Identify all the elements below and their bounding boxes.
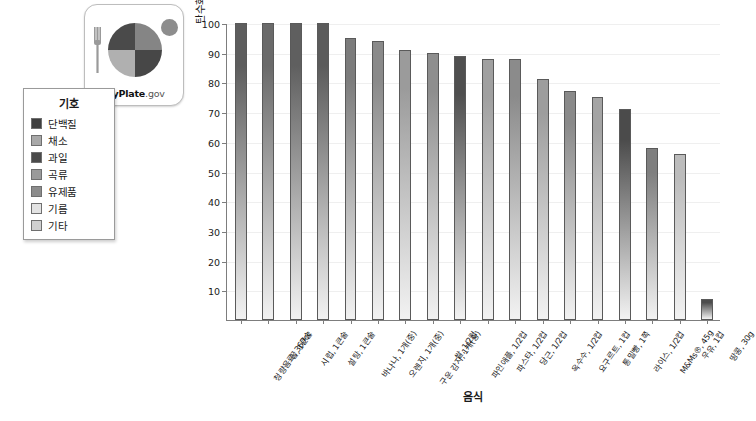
plot-area: 102030405060708090100 청량음료, 360cc꿀, 1큰술시…	[226, 24, 720, 321]
legend-item-label: 기름	[48, 201, 67, 216]
legend-swatch-icon	[31, 186, 42, 197]
y-axis-tick-label: 10	[208, 286, 220, 297]
x-axis-tick	[296, 320, 297, 324]
legend-item: 곡류	[24, 166, 114, 183]
bar	[509, 59, 521, 320]
legend-swatch-icon	[31, 135, 42, 146]
legend-item-label: 과일	[48, 150, 67, 165]
legend-swatch-icon	[31, 169, 42, 180]
x-axis-tick	[625, 320, 626, 324]
x-axis-tick	[433, 320, 434, 324]
x-axis-tick	[351, 320, 352, 324]
bar	[317, 23, 329, 320]
x-axis-title: 음식	[226, 388, 720, 404]
fork-icon	[94, 27, 101, 73]
bar	[345, 38, 357, 320]
bar	[427, 53, 439, 320]
x-axis-tick-label: 땅콩, 30g	[726, 328, 756, 363]
myplate-wordmark-suffix: .gov	[145, 88, 165, 99]
plate-quadrant-protein	[108, 23, 135, 50]
legend-item: 단백질	[24, 115, 114, 132]
x-axis-tick	[680, 320, 681, 324]
legend-item: 유제품	[24, 183, 114, 200]
bar	[372, 41, 384, 320]
y-axis-title: 탄수화물의 에너지(%)	[192, 0, 207, 70]
bar	[592, 97, 604, 320]
y-axis-tick-label: 40	[208, 197, 220, 208]
bar	[399, 50, 411, 320]
bar	[564, 91, 576, 320]
bar	[537, 79, 549, 320]
x-axis-tick	[241, 320, 242, 324]
y-axis-tick-label: 90	[208, 48, 220, 59]
bar-series: 청량음료, 360cc꿀, 1큰술시럽, 1큰술설탕, 1큰술바나나, 1개(중…	[227, 24, 720, 320]
bar	[482, 59, 494, 320]
y-axis-tick-label: 30	[208, 226, 220, 237]
legend-item-label: 기타	[48, 218, 67, 233]
bar	[235, 23, 247, 320]
bar	[674, 154, 686, 320]
legend-swatch-icon	[31, 203, 42, 214]
bar	[646, 148, 658, 320]
plate-quadrant-grains	[135, 23, 162, 50]
cup-icon	[161, 19, 178, 36]
y-axis-tick-label: 50	[208, 167, 220, 178]
plate-icon	[108, 23, 162, 77]
x-axis-tick	[707, 320, 708, 324]
x-axis-tick	[598, 320, 599, 324]
x-axis-tick	[378, 320, 379, 324]
legend-item-label: 유제품	[48, 184, 77, 199]
bar	[619, 109, 631, 320]
x-axis-tick	[323, 320, 324, 324]
legend-swatch-icon	[31, 220, 42, 231]
legend-item-label: 채소	[48, 133, 67, 148]
legend-item: 기타	[24, 217, 114, 234]
x-axis-tick	[652, 320, 653, 324]
bar	[262, 23, 274, 320]
x-axis-tick	[515, 320, 516, 324]
plate-quadrant-fruits	[135, 50, 162, 77]
x-axis-tick	[268, 320, 269, 324]
bar	[701, 299, 713, 320]
plot-area-wrapper: 102030405060708090100 청량음료, 360cc꿀, 1큰술시…	[226, 24, 720, 321]
x-axis-tick	[460, 320, 461, 324]
legend-items: 단백질채소과일곡류유제품기름기타	[24, 115, 114, 234]
y-axis-tick-label: 20	[208, 256, 220, 267]
plate-quadrant-vegetables	[108, 50, 135, 77]
y-axis-tick-label: 80	[208, 78, 220, 89]
y-axis-tick-label: 70	[208, 108, 220, 119]
x-axis-tick	[488, 320, 489, 324]
x-axis-tick	[405, 320, 406, 324]
legend-item: 기름	[24, 200, 114, 217]
legend-item: 채소	[24, 132, 114, 149]
bar	[454, 56, 466, 320]
y-axis-tick-label: 100	[202, 19, 220, 30]
legend-item-label: 단백질	[48, 116, 77, 131]
bar	[290, 23, 302, 320]
x-axis-tick	[570, 320, 571, 324]
y-axis-tick-label: 60	[208, 137, 220, 148]
chart-legend: 기호 단백질채소과일곡류유제품기름기타	[23, 88, 115, 240]
x-axis-tick	[543, 320, 544, 324]
legend-item: 과일	[24, 149, 114, 166]
legend-item-label: 곡류	[48, 167, 67, 182]
legend-title: 기호	[24, 95, 114, 111]
bar-chart: 탄수화물의 에너지(%) 102030405060708090100 청량음료,…	[200, 10, 730, 415]
legend-swatch-icon	[31, 152, 42, 163]
legend-swatch-icon	[31, 118, 42, 129]
